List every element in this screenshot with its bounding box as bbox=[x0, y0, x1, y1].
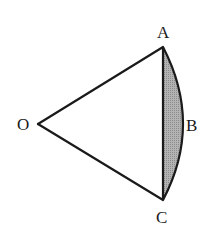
label-B: B bbox=[186, 116, 197, 135]
radius-OA bbox=[38, 47, 163, 124]
label-C: C bbox=[156, 208, 167, 227]
label-A: A bbox=[157, 23, 170, 42]
radius-OC bbox=[38, 124, 163, 200]
sector-diagram: A O B C bbox=[0, 0, 216, 235]
label-O: O bbox=[17, 115, 29, 134]
